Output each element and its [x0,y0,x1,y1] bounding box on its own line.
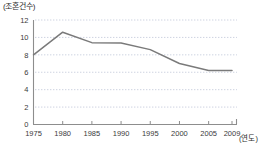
x-axis-tick-labels: 19751980198519901995200020052009 [25,129,240,138]
y-axis-tick-label: 10 [20,33,28,42]
chart-figure: (조혼건수) 024681012 19751980198519901995200… [0,0,263,150]
y-axis-tick-label: 6 [24,68,28,77]
x-axis-tick-label: 2000 [171,129,188,138]
y-axis-tick-labels: 024681012 [20,16,28,130]
x-axis-tick-label: 2009 [224,129,241,138]
x-axis-tick-label: 2005 [200,129,217,138]
x-axis-tick-label: 1990 [113,129,130,138]
y-axis-tick-label: 12 [20,16,28,25]
line-chart-plot: 024681012 197519801985199019952000200520… [0,0,263,150]
y-axis-tick-label: 4 [24,85,28,94]
x-axis-tick-label: 1995 [142,129,159,138]
x-axis-title: (연도) [239,134,258,143]
x-axis-tick-label: 1980 [54,129,71,138]
y-axis-tick-label: 2 [24,103,28,112]
y-axis-tick-label: 8 [24,51,28,60]
x-axis-tick-label: 1985 [84,129,101,138]
data-series-line [34,32,233,70]
x-axis-tick-label: 1975 [25,129,42,138]
